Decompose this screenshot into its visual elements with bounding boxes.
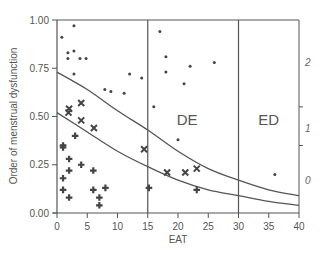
dot-marker: [123, 92, 126, 95]
x-marker: [91, 125, 97, 131]
x-tick-label: 25: [203, 221, 215, 232]
x-tick-label: 20: [172, 221, 184, 232]
dot-marker: [152, 105, 155, 108]
x-tick-label: 30: [233, 221, 245, 232]
plus-marker: [60, 187, 67, 194]
plus-marker: [146, 185, 153, 192]
right-axis-label: 1: [305, 123, 311, 134]
region-label-ed: ED: [258, 111, 279, 128]
right-axis-label: 2: [304, 57, 311, 68]
x-marker: [182, 169, 188, 175]
region-labels: DEED: [177, 111, 280, 128]
dot-marker: [158, 30, 161, 33]
x-axis: 0510152025303540: [53, 213, 305, 232]
dot-marker: [78, 57, 81, 60]
right-axis: 210: [299, 20, 311, 213]
x-marker: [141, 146, 147, 152]
dot-marker: [213, 61, 216, 64]
y-tick-label: 1.00: [30, 15, 50, 26]
dot-marker: [189, 65, 192, 68]
plus-marker: [72, 133, 79, 140]
x-axis-title: EAT: [169, 234, 188, 245]
data-markers: [60, 24, 277, 208]
dot-marker: [66, 57, 69, 60]
dot-marker: [177, 138, 180, 141]
plus-marker: [66, 156, 73, 163]
dot-marker: [164, 55, 167, 58]
plus-marker: [96, 202, 103, 209]
plus-marker: [60, 175, 67, 182]
x-marker: [194, 166, 200, 172]
dot-marker: [72, 49, 75, 52]
x-marker: [164, 169, 170, 175]
y-axis-title: Order of menstrual dysfunction: [8, 48, 19, 185]
y-tick-label: 0.25: [30, 159, 50, 170]
dot-marker: [183, 82, 186, 85]
dot-marker: [273, 173, 276, 176]
x-tick-label: 35: [263, 221, 275, 232]
x-tick-label: 5: [84, 221, 90, 232]
right-axis-label: 0: [305, 175, 311, 186]
scatter-chart: 0510152025303540 0.000.250.500.751.00 21…: [0, 0, 324, 257]
plus-marker: [90, 167, 97, 174]
plus-marker: [90, 187, 97, 194]
x-tick-label: 10: [112, 221, 124, 232]
dot-marker: [60, 36, 63, 39]
x-tick-label: 40: [293, 221, 305, 232]
dot-marker: [103, 88, 106, 91]
x-tick-label: 0: [54, 221, 60, 232]
plus-marker: [66, 194, 73, 201]
plus-marker: [78, 161, 85, 168]
region-label-de: DE: [177, 111, 198, 128]
y-tick-label: 0.00: [30, 208, 50, 219]
y-tick-label: 0.50: [30, 111, 50, 122]
x-marker: [78, 117, 84, 123]
plus-marker: [66, 167, 73, 174]
upper-boundary-curve: [57, 72, 299, 196]
x-marker: [78, 100, 84, 106]
dot-marker: [72, 24, 75, 27]
y-tick-label: 0.75: [30, 63, 50, 74]
dot-marker: [85, 57, 88, 60]
dot-marker: [66, 51, 69, 54]
dot-marker: [72, 73, 75, 76]
dot-marker: [164, 71, 167, 74]
dot-marker: [128, 73, 131, 76]
dot-marker: [140, 76, 143, 79]
dot-marker: [109, 90, 112, 93]
y-axis: 0.000.250.500.751.00: [30, 15, 57, 219]
plus-marker: [102, 185, 109, 192]
x-tick-label: 15: [142, 221, 154, 232]
plus-marker: [96, 194, 103, 201]
